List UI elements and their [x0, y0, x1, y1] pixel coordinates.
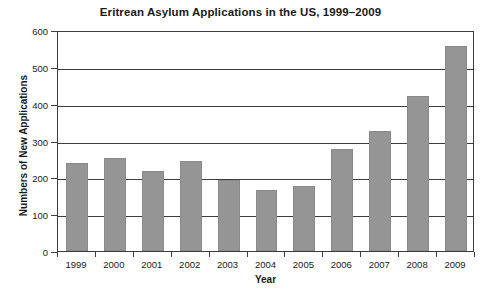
y-axis-tick-mark — [51, 215, 57, 216]
x-axis-tick-mark — [474, 252, 475, 257]
gridline — [58, 69, 473, 70]
bar — [180, 161, 202, 251]
x-axis-tick-mark — [284, 252, 285, 257]
x-axis-tick-mark — [360, 252, 361, 257]
x-axis-tick-mark — [398, 252, 399, 257]
x-axis-tick-mark — [171, 252, 172, 257]
x-axis-tick-mark — [133, 252, 134, 257]
y-axis-tick-label: 300 — [14, 136, 48, 147]
bar — [407, 96, 429, 251]
bar — [104, 158, 126, 251]
x-axis-tick-mark — [436, 252, 437, 257]
bar — [293, 186, 315, 251]
x-axis-tick-mark — [322, 252, 323, 257]
x-axis-tick-mark — [95, 252, 96, 257]
bar — [256, 190, 278, 252]
y-axis-tick-label: 0 — [14, 247, 48, 258]
bar — [218, 180, 240, 251]
x-axis-tick-mark — [57, 252, 58, 257]
y-axis-tick-mark — [51, 68, 57, 69]
x-axis-label: Year — [57, 274, 474, 285]
x-axis-tick-mark — [247, 252, 248, 257]
bar — [369, 131, 391, 251]
bar — [66, 163, 88, 251]
y-axis-tick-mark — [51, 178, 57, 179]
plot-area — [57, 31, 474, 252]
y-axis-tick-label: 600 — [14, 26, 48, 37]
y-axis-tick-label: 100 — [14, 210, 48, 221]
y-axis-tick-mark — [51, 31, 57, 32]
bar — [445, 46, 467, 251]
y-axis-tick-labels: 0100200300400500600 — [12, 31, 48, 252]
bar-chart: Eritrean Asylum Applications in the US, … — [0, 0, 481, 296]
y-axis-tick-label: 400 — [14, 99, 48, 110]
x-axis-tick-mark — [209, 252, 210, 257]
bar — [142, 171, 164, 251]
bar — [331, 149, 353, 251]
y-axis-tick-label: 200 — [14, 173, 48, 184]
chart-title: Eritrean Asylum Applications in the US, … — [0, 6, 481, 18]
y-axis-tick-mark — [51, 142, 57, 143]
y-axis-tick-label: 500 — [14, 62, 48, 73]
y-axis-tick-mark — [51, 105, 57, 106]
x-axis-tick-label: 2009 — [430, 259, 480, 270]
